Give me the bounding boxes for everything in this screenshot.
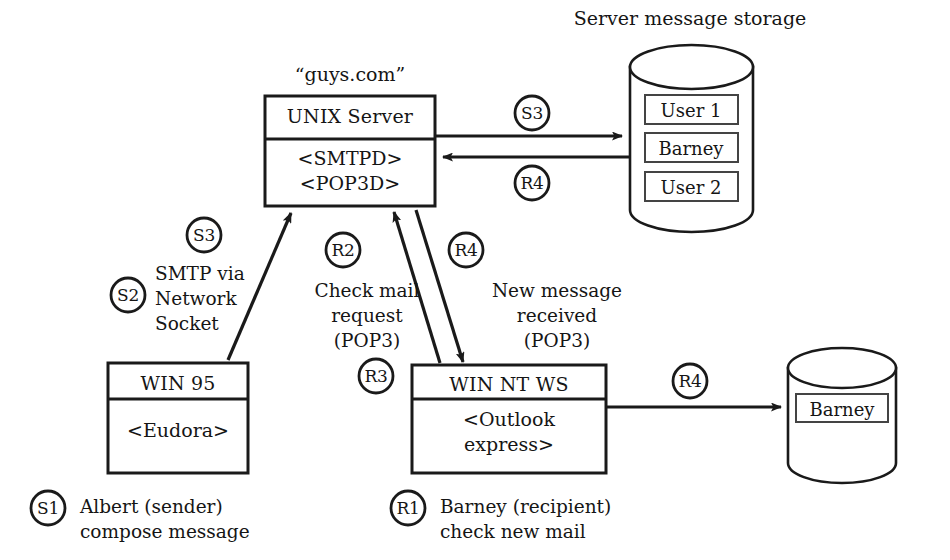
footnote-sender-line2: compose message: [80, 520, 250, 544]
arrow-r4-server-to-winnt: [416, 210, 463, 362]
win95-title: WIN 95: [108, 371, 248, 395]
server-storage-slot-user1: User 1: [645, 99, 738, 122]
edge-label-smtp-line2: Network: [155, 287, 237, 311]
client-storage-slot-barney: Barney: [796, 398, 888, 421]
server-domain-caption: “guys.com”: [295, 62, 405, 86]
winnt-outlook-label-line1: <Outlook: [412, 407, 606, 432]
edge-label-checkmail-line3: (POP3): [334, 329, 400, 353]
winnt-title: WIN NT WS: [412, 372, 606, 396]
badge-r2-label: R2: [331, 240, 354, 262]
badge-s1-label: S1: [37, 498, 59, 520]
edge-label-checkmail-line1: Check mail: [315, 279, 420, 303]
unix-server-smtpd-label: <SMTPD>: [265, 146, 435, 171]
diagram-vector-layer: [0, 0, 950, 560]
badge-r4-right-label: R4: [678, 371, 701, 393]
winnt-outlook-label-line2: express>: [412, 432, 606, 457]
badge-s3-top-label: S3: [521, 103, 543, 125]
server-storage-slot-barney: Barney: [645, 137, 738, 160]
unix-server-title: UNIX Server: [265, 104, 435, 128]
edge-label-newmessage-line2: received: [517, 304, 597, 328]
badge-r1-label: R1: [396, 498, 419, 520]
unix-server-pop3d-label: <POP3D>: [265, 171, 435, 196]
footnote-recipient-line1: Barney (recipient): [440, 495, 611, 519]
badge-s3-left-label: S3: [193, 225, 215, 247]
arrow-smtp-win95-to-server: [228, 213, 291, 360]
edge-label-checkmail-line2: request: [331, 304, 402, 328]
server-storage-caption: Server message storage: [574, 6, 807, 30]
footnote-recipient-line2: check new mail: [440, 520, 586, 544]
badge-r3-label: R3: [364, 366, 387, 388]
edge-label-smtp-line3: Socket: [155, 312, 219, 336]
win95-eudora-label: <Eudora>: [108, 418, 248, 443]
badge-r4-top-label: R4: [520, 173, 543, 195]
badge-s2-label: S2: [117, 285, 139, 307]
server-storage-slot-user2: User 2: [645, 176, 738, 199]
footnote-sender-line1: Albert (sender): [80, 495, 223, 519]
badge-r4-mid-label: R4: [454, 240, 477, 262]
diagram-canvas: Server message storage “guys.com” UNIX S…: [0, 0, 950, 560]
edge-label-newmessage-line1: New message: [492, 279, 622, 303]
edge-label-newmessage-line3: (POP3): [524, 329, 590, 353]
edge-label-smtp-line1: SMTP via: [155, 262, 245, 286]
